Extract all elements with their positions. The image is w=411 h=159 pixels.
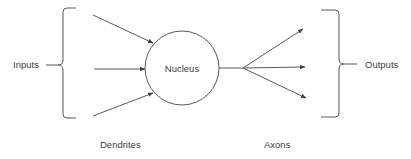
neuron-diagram: Inputs Nucleus Outputs Dendrites Axons [0, 0, 411, 159]
axon-arrow-bottom [243, 68, 306, 98]
axon-arrow-top [243, 29, 303, 68]
dendrites-label: Dendrites [100, 139, 141, 150]
dendrite-arrow-bottom [93, 93, 153, 116]
dendrite-arrow-top [93, 15, 153, 43]
nucleus-label: Nucleus [165, 63, 200, 74]
axons-label: Axons [264, 139, 291, 150]
axon-arrow-middle [243, 67, 305, 68]
inputs-brace [58, 8, 76, 118]
outputs-brace [321, 10, 344, 117]
inputs-label: Inputs [13, 59, 39, 70]
outputs-label: Outputs [365, 59, 399, 70]
